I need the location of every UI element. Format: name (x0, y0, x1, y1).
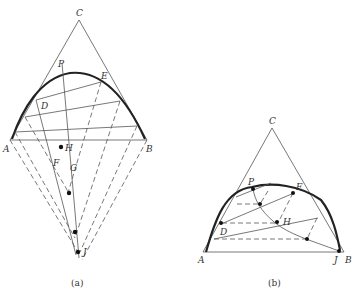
point-b (258, 202, 262, 206)
point-p-b (251, 187, 255, 191)
triangle-a (10, 20, 147, 140)
label-d-b: D (219, 227, 227, 237)
panel-b: C A B P E D H J (b) (197, 116, 352, 288)
point-d-b (219, 221, 223, 225)
caption-a: (a) (71, 278, 83, 288)
panel-a: C A B P E D H F G J (a) (2, 8, 153, 288)
point-b (305, 237, 309, 241)
dashed-line-a (82, 140, 147, 260)
label-a-a: A (2, 144, 10, 154)
label-j-a: J (81, 247, 88, 257)
label-g-a: G (70, 163, 77, 173)
dashed-line-a (75, 101, 120, 238)
point-g-a (67, 191, 71, 195)
label-e-a: E (100, 71, 108, 81)
label-d-a: D (40, 101, 48, 111)
label-c-b: C (269, 116, 276, 126)
tie-line-b (214, 218, 318, 239)
label-c-a: C (76, 8, 83, 18)
label-f-a: F (52, 158, 60, 168)
tie-line-a (25, 101, 120, 117)
ternary-diagram-figure: C A B P E D H F G J (a) (0, 0, 357, 294)
dashed-line-a (25, 117, 70, 195)
label-h-b: H (282, 217, 291, 227)
dashed-line-a (80, 126, 137, 252)
label-j-b: J (332, 255, 339, 265)
point-a (73, 230, 77, 234)
dashed-line-a (10, 140, 78, 252)
binodal-curve-b (206, 185, 340, 252)
point-j-b (337, 249, 341, 253)
label-b-a: B (145, 144, 153, 154)
label-p-b: P (247, 177, 255, 187)
construction-line-a (36, 100, 76, 255)
label-h-a: H (64, 143, 73, 153)
point-h-b (275, 220, 279, 224)
point-e-b (291, 191, 295, 195)
operating-line-a (62, 63, 79, 258)
dashed-line-a (68, 82, 101, 193)
caption-b: (b) (268, 278, 281, 288)
point-h-a (59, 145, 63, 149)
label-b-b: B (344, 255, 352, 265)
point-j-a (76, 250, 80, 254)
dashed-line-b (307, 218, 317, 239)
dashed-line-b (260, 191, 268, 204)
label-p-a: P (57, 59, 65, 69)
label-a-b: A (197, 255, 205, 265)
operating-curve-b (253, 189, 339, 251)
label-e-b: E (295, 182, 303, 192)
